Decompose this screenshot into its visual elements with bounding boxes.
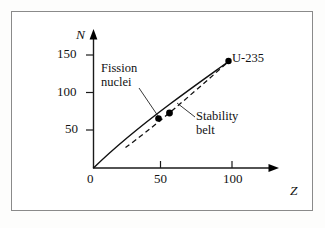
y-axis-label: N [76,28,85,43]
origin-label: 0 [87,172,94,186]
y-axis [86,29,97,168]
annotation-fission-nuclei: Fission nuclei [101,62,137,89]
annotation-u235: U-235 [232,52,264,66]
figure-container: N Z 150 100 50 0 50 100 Fission nuclei S… [0,0,325,228]
plot-area [0,0,325,228]
x-tick-label-50: 50 [154,172,167,186]
x-tick-label-100: 100 [223,172,243,186]
annotation-stability-belt: Stability belt [196,110,238,137]
y-tick-label-100: 100 [57,85,77,99]
data-point-u235 [225,58,231,64]
y-tick-label-50: 50 [65,122,78,136]
data-point-fission-1 [155,115,162,122]
data-point-fission-2 [166,110,173,117]
x-axis-label: Z [290,184,298,199]
y-tick-label-150: 150 [57,47,77,61]
leader-line-stability [177,103,195,117]
leader-line-fission [139,88,158,116]
x-axis [94,161,280,172]
